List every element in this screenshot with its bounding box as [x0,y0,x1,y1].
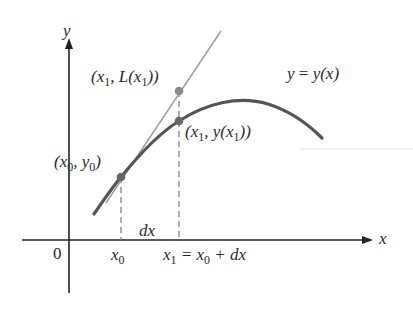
curve-label: y = y(x) [287,65,339,82]
x-axis-label: x [379,230,387,247]
point-x0-y0 [117,173,126,182]
x-axis-arrow-icon [362,236,373,244]
curve-label-eq: = [295,64,313,83]
label-part: , y(x [204,122,233,141]
curve-label-lhs: y [287,64,295,83]
x1-tick-label: x1 = x0 + dx [163,246,246,266]
curve-label-arg: (x) [320,64,339,83]
label-sub: 0 [119,253,125,267]
label-part: + dx [210,245,246,264]
label-part: )) [147,67,158,86]
label-part: , y [73,152,89,171]
label-x1-yx1: (x1, y(x1)) [185,123,251,143]
label-part: x [111,245,119,264]
y-axis-label: y [63,22,71,39]
label-part: = x [177,245,205,264]
curve-y-of-x [94,100,322,214]
origin-label: 0 [53,245,62,262]
label-part: (x [91,67,104,86]
dx-label: dx [139,222,155,239]
label-part: , L(x [110,67,141,86]
label-x1-Lx1: (x1, L(x1)) [91,68,159,88]
x0-tick-label: x0 [111,246,125,266]
label-x0-y0: (x0, y0) [54,153,101,173]
label-part: (x [54,152,67,171]
point-x1-Lx1 [175,87,184,96]
label-part: (x [185,122,198,141]
label-part: )) [239,122,250,141]
label-part: ) [95,152,101,171]
label-part: x [163,245,171,264]
point-x1-yx1 [175,117,184,126]
